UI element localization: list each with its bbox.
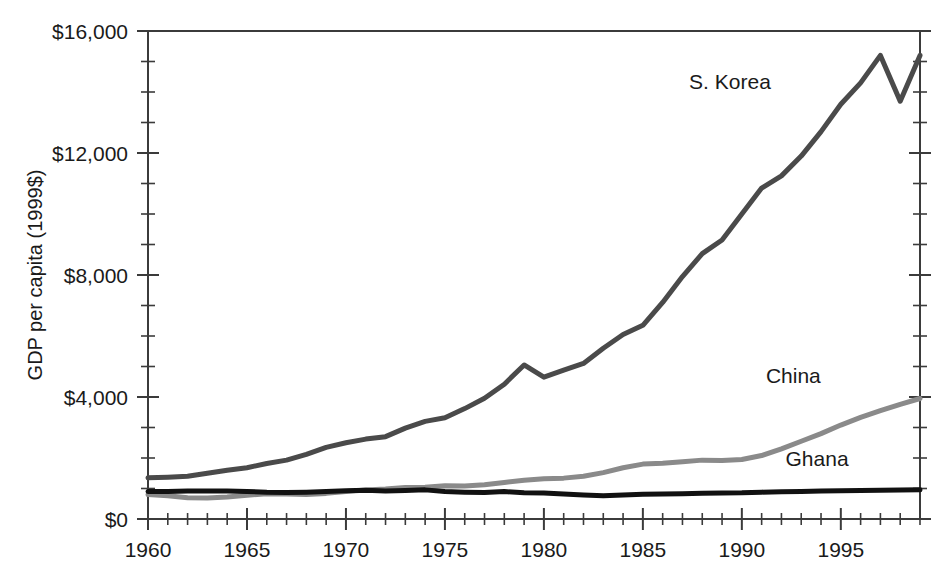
- series-label-china: China: [766, 364, 821, 387]
- x-tick-label: 1980: [521, 538, 568, 561]
- y-axis-title: GDP per capita (1999$): [24, 170, 46, 381]
- y-tick-label: $4,000: [64, 386, 128, 409]
- axis-tick-labels: $0$4,000$8,000$12,000$16,000196019651970…: [52, 20, 864, 561]
- y-tick-label: $16,000: [52, 20, 128, 43]
- data-series: [148, 55, 920, 498]
- x-tick-label: 1990: [718, 538, 765, 561]
- axis-titles: GDP per capita (1999$): [24, 170, 46, 381]
- series-label-s-korea: S. Korea: [689, 70, 771, 93]
- y-tick-label: $8,000: [64, 264, 128, 287]
- gdp-per-capita-line-chart: $0$4,000$8,000$12,000$16,000196019651970…: [0, 0, 952, 579]
- x-tick-label: 1970: [323, 538, 370, 561]
- x-tick-label: 1995: [817, 538, 864, 561]
- series-line-s-korea: [148, 55, 920, 477]
- y-tick-label: $12,000: [52, 142, 128, 165]
- chart-container: $0$4,000$8,000$12,000$16,000196019651970…: [0, 0, 952, 579]
- series-label-ghana: Ghana: [786, 447, 849, 470]
- x-tick-label: 1975: [422, 538, 469, 561]
- x-tick-label: 1960: [125, 538, 172, 561]
- x-tick-label: 1965: [224, 538, 271, 561]
- y-tick-label: $0: [105, 508, 128, 531]
- x-tick-label: 1985: [620, 538, 667, 561]
